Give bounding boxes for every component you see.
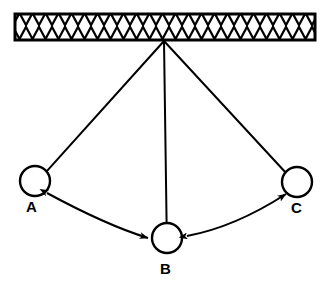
bob-label-b: B [160,260,171,277]
bob-a [20,166,50,196]
pendulum-strings [47,41,287,223]
bob-c [282,167,312,197]
string-pivot-to-a [47,41,164,171]
pendulum-diagram: A B C [0,0,331,291]
bob-b [152,223,182,253]
diagram-canvas: A B C [0,0,331,291]
arrow-b-c [187,194,286,236]
ceiling-support-bar [15,14,315,40]
support-bar-hatch-fill [15,14,315,40]
string-pivot-to-c [164,41,286,173]
string-pivot-to-b [164,41,167,223]
bob-label-c: C [291,199,302,216]
bob-label-a: A [26,198,37,215]
arrow-a-b [47,193,148,238]
